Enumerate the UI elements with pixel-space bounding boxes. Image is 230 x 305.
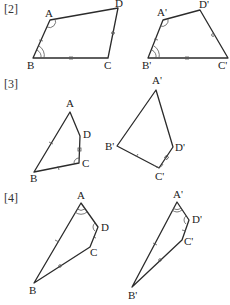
vertex-a-prime: A' [157, 6, 167, 18]
vertex-c: C [104, 59, 111, 71]
angle-a-double-arc-1 [77, 209, 85, 210]
problem-3-label: [3] [4, 77, 18, 91]
vertex-b-prime: B' [142, 59, 151, 71]
problem-3: [3] A D C B A' B' D' C' [4, 74, 185, 184]
vertex-b: B [27, 59, 34, 71]
congruent-quadrilaterals-diagram: [2] A B C D [0, 0, 230, 305]
vertex-d-prime: D' [199, 0, 209, 10]
vertex-b: B [29, 284, 36, 296]
vertex-d-prime: D' [175, 141, 185, 153]
quad-a1b1c1d1-3: A' B' D' C' [105, 74, 185, 182]
vertex-c: C [90, 246, 97, 258]
angle-a-double-arc-2 [75, 212, 87, 214]
vertex-a: A [66, 97, 74, 109]
quad-abcd-4: A D C B [29, 189, 109, 296]
quad-abcd-2: A B C D [27, 0, 123, 71]
vertex-b: B [30, 172, 37, 184]
vertex-d: D [83, 128, 91, 140]
vertex-a: A [77, 189, 85, 201]
vertex-c-prime: C' [184, 235, 193, 247]
vertex-b-prime: B' [105, 140, 114, 152]
vertex-a: A [45, 7, 53, 19]
vertex-c: C [82, 157, 89, 169]
quadrilateral-a-prime [117, 90, 173, 168]
angle-b-prime-double-arc-1 [152, 50, 156, 58]
vertex-a-prime: A' [173, 188, 183, 200]
quad-a1b1c1d1-2: A' B' C' D' [142, 0, 228, 71]
vertex-c-prime: C' [218, 59, 227, 71]
vertex-b-prime: B' [128, 289, 137, 301]
vertex-c-prime: C' [155, 170, 164, 182]
tick-ab [39, 40, 43, 41]
angle-a-prime-double-arc-2 [172, 210, 182, 212]
angle-d-prime-arc [184, 216, 186, 224]
quad-abcd-3: A D C B [30, 97, 91, 184]
vertex-a-prime: A' [152, 74, 162, 86]
angle-c-arc [74, 158, 79, 163]
quadrilateral-a-prime [132, 202, 189, 287]
problem-2: [2] A B C D [4, 0, 228, 71]
angle-d-arc [93, 223, 95, 231]
vertex-d: D [101, 221, 109, 233]
quad-a1b1c1d1-4: A' D' C' B' [128, 188, 202, 301]
quadrilateral-abcd [34, 112, 80, 172]
vertex-d-prime: D' [192, 213, 202, 225]
problem-4-label: [4] [4, 191, 18, 205]
problem-4: [4] A D C B A' D' C' B' [4, 188, 202, 301]
quadrilateral-abcd [34, 203, 98, 283]
problem-2-label: [2] [4, 2, 18, 16]
angle-b-double-arc-1 [37, 50, 41, 58]
vertex-d: D [115, 0, 123, 9]
